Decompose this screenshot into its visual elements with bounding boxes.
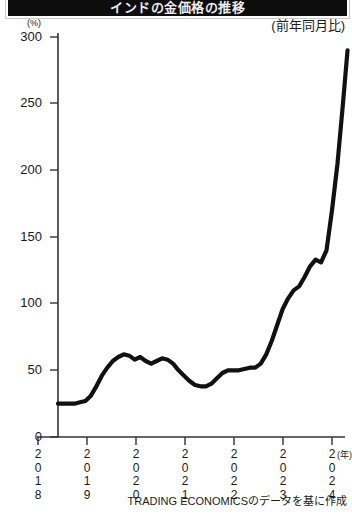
x-tick-label-2023: 2 0 2 3 xyxy=(276,448,290,502)
x-tick-2020-digit-2: 0 xyxy=(129,462,143,476)
data-series-line xyxy=(58,50,348,403)
x-tick-2020-digit-3: 2 xyxy=(129,475,143,489)
x-tick-2024-digit-2: 0 xyxy=(325,462,339,476)
x-tick-label-2020: 2 0 2 0 xyxy=(129,448,143,502)
x-tick-label-2019: 2 0 1 9 xyxy=(80,448,94,502)
x-tick-2021-digit-2: 0 xyxy=(178,462,192,476)
source-note: TRADING ECONOMICSのデータを基に作成 xyxy=(128,495,347,508)
x-tick-2021-digit-1: 2 xyxy=(178,448,192,462)
y-tick-label-200: 200 xyxy=(8,163,42,176)
y-tick-label-250: 250 xyxy=(8,96,42,109)
y-axis-ticks xyxy=(50,37,58,437)
x-tick-2018-digit-4: 8 xyxy=(31,489,45,503)
y-tick-label-50: 50 xyxy=(8,363,42,376)
x-tick-2018-digit-2: 0 xyxy=(31,462,45,476)
x-tick-2019-digit-2: 0 xyxy=(80,462,94,476)
y-tick-label-100: 100 xyxy=(8,296,42,309)
x-tick-2018-digit-3: 1 xyxy=(31,475,45,489)
x-tick-2022-digit-2: 0 xyxy=(227,462,241,476)
x-tick-2021-digit-3: 2 xyxy=(178,475,192,489)
x-tick-2023-digit-1: 2 xyxy=(276,448,290,462)
y-tick-label-0: 0 xyxy=(8,430,42,443)
x-tick-2019-digit-3: 1 xyxy=(80,475,94,489)
x-tick-label-2018: 2 0 1 8 xyxy=(31,448,45,502)
x-tick-2018-digit-1: 2 xyxy=(31,448,45,462)
x-tick-2019-digit-1: 2 xyxy=(80,448,94,462)
x-tick-2024-digit-3: 2 xyxy=(325,475,339,489)
x-tick-2022-digit-1: 2 xyxy=(227,448,241,462)
x-tick-label-2021: 2 0 2 1 xyxy=(178,448,192,502)
x-tick-2023-digit-2: 0 xyxy=(276,462,290,476)
x-tick-2023-digit-3: 2 xyxy=(276,475,290,489)
x-tick-2022-digit-3: 2 xyxy=(227,475,241,489)
x-tick-label-2022: 2 0 2 2 xyxy=(227,448,241,502)
x-tick-2019-digit-4: 9 xyxy=(80,489,94,503)
x-axis-ticks xyxy=(38,437,332,445)
x-tick-2020-digit-1: 2 xyxy=(129,448,143,462)
y-tick-label-300: 300 xyxy=(8,30,42,43)
x-axis-unit-label: (年) xyxy=(337,450,352,460)
y-tick-label-150: 150 xyxy=(8,230,42,243)
